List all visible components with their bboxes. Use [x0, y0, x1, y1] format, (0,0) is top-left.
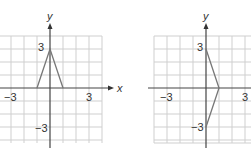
x-axis-label: x — [116, 82, 123, 94]
y-axis-arrow-icon — [204, 23, 209, 29]
tick-label-x-pos: 3 — [242, 91, 248, 103]
graph-right: y −3 3 3 −3 — [148, 10, 251, 148]
y-axis-label: y — [202, 10, 210, 22]
tick-label-y-pos: 3 — [38, 41, 44, 53]
y-axis-arrow-icon — [48, 23, 53, 29]
x-axis-arrow-icon — [108, 86, 114, 91]
tick-label-x-neg: −3 — [160, 91, 173, 103]
tick-label-y-neg: −3 — [191, 121, 204, 133]
tick-label-y-pos: 3 — [197, 41, 203, 53]
tick-label-x-neg: −3 — [4, 91, 17, 103]
y-axis-label: y — [46, 10, 54, 22]
tick-label-x-pos: 3 — [86, 91, 92, 103]
tick-label-y-neg: −3 — [35, 122, 48, 134]
graph-left: y x −3 3 3 −3 — [0, 10, 123, 148]
